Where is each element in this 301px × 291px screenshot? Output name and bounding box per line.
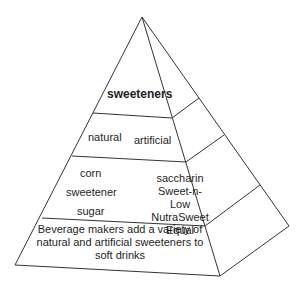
natural-item-corn: corn — [80, 167, 101, 180]
artificial-item-saccharin: saccharin — [148, 172, 212, 185]
natural-item-sweetener: sweetener — [66, 186, 117, 199]
natural-item-sugar: sugar — [77, 205, 105, 218]
base-line-2: natural and artificial sweeteners to — [30, 236, 210, 249]
base-right-edge — [220, 226, 289, 276]
artificial-item-sweet-n-low: Sweet-n-Low — [148, 185, 212, 211]
divider-1-side — [172, 98, 199, 118]
level-2-artificial-label: artificial — [134, 134, 171, 147]
base-line-1: Beverage makers add a variety of — [30, 223, 210, 236]
base-description: Beverage makers add a variety of natural… — [30, 223, 210, 262]
divider-2-side — [186, 135, 224, 162]
divider-3-side — [205, 185, 260, 226]
level-1-label: sweeteners — [107, 88, 172, 101]
base-line-3: soft drinks — [30, 249, 210, 262]
base-front-edge — [15, 265, 220, 276]
divider-1-front — [93, 113, 172, 118]
divider-2-front — [72, 156, 186, 162]
level-2-natural-label: natural — [88, 131, 122, 144]
